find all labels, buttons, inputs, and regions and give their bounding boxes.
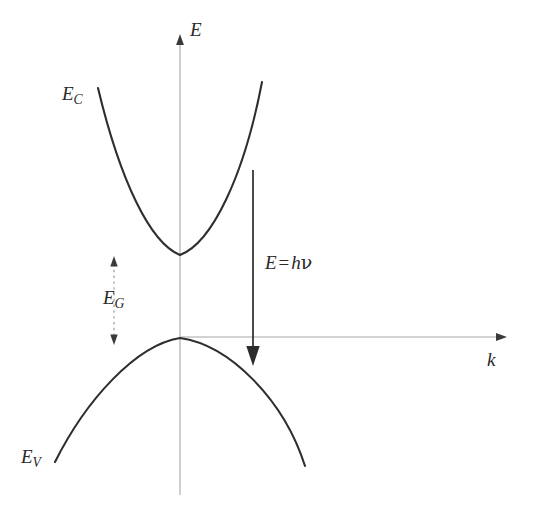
conduction-band-label-subscript: C: [74, 92, 83, 107]
photon-energy-planck: h: [291, 252, 301, 273]
energy-axis-arrowhead-icon: [176, 34, 184, 45]
energy-axis: [176, 34, 184, 495]
wavevector-axis: [180, 333, 507, 341]
band-gap-label: EG: [103, 288, 124, 311]
conduction-band-label: EC: [62, 84, 83, 107]
photon-energy-nu: ν: [301, 251, 313, 273]
transition-arrowhead-icon: [246, 346, 259, 366]
valence-band-label: EV: [21, 447, 41, 470]
valence-band-label-base: E: [21, 446, 33, 467]
photon-energy-equals: =: [277, 252, 292, 273]
photon-energy-label: E=hν: [265, 253, 312, 272]
wavevector-axis-arrowhead-icon: [496, 333, 507, 341]
wavevector-axis-label-text: k: [487, 349, 495, 370]
energy-axis-label: E: [190, 20, 202, 39]
energy-axis-label-text: E: [190, 19, 202, 40]
band-diagram-figure: EC EV EG E=hν E k: [0, 0, 535, 511]
band-gap-arrowhead-down-icon: [110, 335, 117, 346]
band-gap-label-base: E: [103, 287, 115, 308]
valence-band-label-subscript: V: [33, 455, 41, 470]
conduction-band-label-base: E: [62, 83, 74, 104]
band-gap-label-subscript: G: [115, 296, 125, 311]
band-gap-arrowhead-up-icon: [110, 256, 117, 267]
photon-energy-lhs: E: [265, 252, 277, 273]
wavevector-axis-label: k: [487, 350, 495, 369]
